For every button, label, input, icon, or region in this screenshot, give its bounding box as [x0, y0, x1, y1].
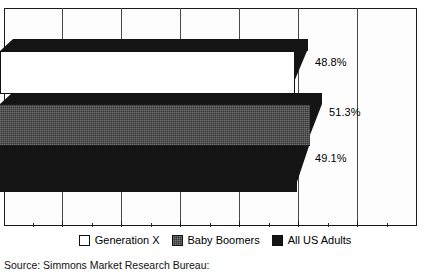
value-label-generation-x: 48.8%: [315, 56, 347, 68]
black-swatch-icon: [272, 235, 283, 246]
bar-chart: 48.8% 51.3% 49.1%: [4, 8, 417, 226]
gray-swatch-icon: [172, 235, 183, 246]
axis-tick-minor: [328, 223, 329, 227]
chart-legend: Generation X Baby Boomers All US Adults: [0, 234, 430, 246]
bar-generation-x: [0, 51, 295, 94]
legend-label: Baby Boomers: [188, 234, 260, 246]
axis-tick-major: [180, 221, 181, 227]
bar-all-us-adults: [0, 146, 297, 192]
axis-tick-minor: [387, 223, 388, 227]
legend-label: Generation X: [95, 234, 160, 246]
bar-side-face: [294, 39, 307, 82]
axis-tick-major: [121, 221, 122, 227]
value-label-baby-boomers: 51.3%: [329, 106, 361, 118]
axis-tick-minor: [151, 223, 152, 227]
axis-tick-minor: [210, 223, 211, 227]
legend-label: All US Adults: [288, 234, 352, 246]
axis-tick-minor: [33, 223, 34, 227]
axis-tick-major: [357, 221, 358, 227]
axis-tick-minor: [92, 223, 93, 227]
value-label-all-us-adults: 49.1%: [315, 152, 347, 164]
source-note: Source: Simmons Market Research Bureau:: [4, 259, 209, 271]
axis-tick-minor: [269, 223, 270, 227]
axis-tick-major: [298, 221, 299, 227]
legend-item-baby-boomers[interactable]: Baby Boomers: [172, 234, 260, 246]
axis-tick-major: [62, 221, 63, 227]
bar-baby-boomers: [0, 104, 310, 146]
bar-front-face: [0, 104, 310, 146]
legend-item-generation-x[interactable]: Generation X: [79, 234, 160, 246]
bar-top-face: [0, 39, 308, 51]
bar-front-face: [0, 51, 295, 94]
bar-top-face: [0, 93, 322, 104]
bar-side-face: [310, 93, 322, 135]
legend-item-all-us-adults[interactable]: All US Adults: [272, 234, 352, 246]
bar-front-face: [0, 146, 297, 192]
axis-tick-major: [239, 221, 240, 227]
white-swatch-icon: [79, 235, 90, 246]
